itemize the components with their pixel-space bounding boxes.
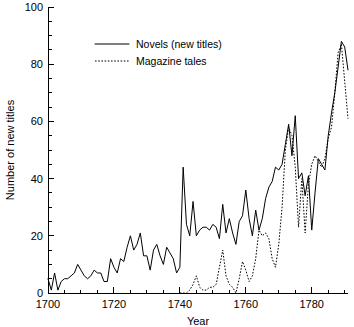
chart-plot-area: 02040608010017001720174017601780YearNumb… [0,0,354,327]
series-line-magazine-tales [180,44,348,293]
series-line-novels [48,41,348,290]
y-tick-label: 20 [31,230,43,242]
y-tick-label: 100 [25,1,43,13]
y-tick-label: 40 [31,173,43,185]
y-tick-label: 60 [31,115,43,127]
y-tick-label: 80 [31,58,43,70]
line-chart: 02040608010017001720174017601780YearNumb… [0,0,354,327]
x-tick-label: 1720 [102,298,126,310]
x-tick-label: 1780 [299,298,323,310]
x-tick-label: 1700 [36,298,60,310]
legend-label-novels: Novels (new titles) [136,38,222,50]
y-axis-title: Number of new titles [4,99,16,200]
x-axis-title: Year [187,315,210,327]
x-tick-label: 1760 [234,298,258,310]
legend-label-magazine-tales: Magazine tales [136,55,207,67]
x-tick-label: 1740 [168,298,192,310]
